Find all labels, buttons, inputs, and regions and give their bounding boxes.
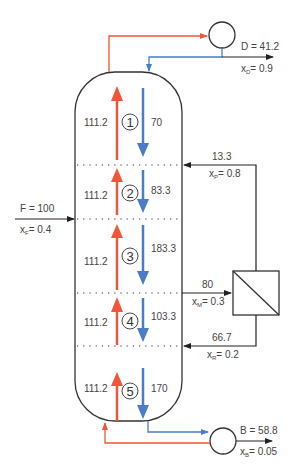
distillate-flow-label: D = 41.2: [241, 41, 280, 52]
bottoms-liquid-line: [148, 421, 208, 432]
feed-composition: xF= 0.4: [20, 224, 52, 236]
bottoms-composition: xB= 0.05: [240, 446, 278, 458]
stage-1: 1 111.2 70: [84, 86, 163, 160]
permeate-flow: 13.3: [212, 151, 232, 162]
svg-text:4: 4: [126, 314, 133, 329]
permeate-composition: xP= 0.8: [209, 168, 241, 180]
svg-text:70: 70: [151, 117, 163, 128]
distillate-composition: xD= 0.9: [241, 63, 273, 75]
boilup-vapor-line: [105, 423, 210, 443]
svg-text:111.2: 111.2: [84, 117, 108, 128]
membrane-feed-flow: 80: [202, 279, 214, 290]
stage-5: 5 111.2 170: [84, 368, 168, 421]
svg-text:111.2: 111.2: [84, 190, 108, 201]
retentate-composition: xR= 0.2: [207, 349, 239, 361]
svg-text:111.2: 111.2: [84, 256, 108, 267]
svg-text:3: 3: [126, 249, 133, 264]
distillation-membrane-diagram: D = 41.2 xD= 0.9 B = 58.8 xB= 0.05 F = 1…: [0, 0, 294, 476]
feed-flow-label: F = 100: [20, 203, 55, 214]
svg-text:5: 5: [126, 384, 133, 399]
svg-text:2: 2: [126, 186, 133, 201]
stage-2: 2 111.2 83.3: [84, 168, 171, 215]
svg-text:111.2: 111.2: [84, 317, 108, 328]
svg-text:183.3: 183.3: [151, 243, 176, 254]
permeate-recycle-line: [184, 165, 256, 271]
svg-text:83.3: 83.3: [151, 185, 171, 196]
stage-4: 4 111.2 103.3: [84, 297, 176, 345]
svg-text:1: 1: [126, 115, 133, 130]
bottoms-flow-label: B = 58.8: [240, 425, 278, 436]
svg-text:111.2: 111.2: [84, 383, 108, 394]
overhead-vapor-line: [109, 36, 207, 72]
svg-text:170: 170: [151, 383, 168, 394]
svg-text:103.3: 103.3: [151, 311, 176, 322]
stage-3: 3 111.2 183.3: [84, 224, 176, 290]
condenser: [209, 22, 235, 48]
membrane-feed-composition: xM= 0.3: [192, 296, 225, 308]
reflux-line: [149, 48, 222, 71]
membrane-unit: [233, 271, 279, 315]
retentate-flow: 66.7: [212, 332, 232, 343]
reboiler: [210, 428, 236, 454]
